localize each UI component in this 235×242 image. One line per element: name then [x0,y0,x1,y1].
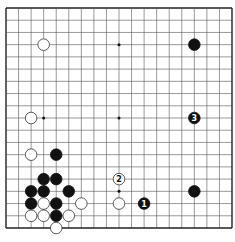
stones: 321 [25,39,200,234]
move-number-label: 2 [116,175,122,184]
white-stone [25,210,37,222]
white-stone [76,198,88,210]
black-stone [38,173,50,185]
black-stone [189,39,201,51]
white-stone [25,112,37,124]
black-stone [50,173,62,185]
white-stone [38,39,50,51]
black-stone [38,186,50,198]
star-point [118,43,121,46]
white-stone [38,210,50,222]
black-stone: 1 [138,198,150,210]
go-board-diagram: 321 [0,0,235,242]
move-number-label: 3 [192,114,198,123]
black-stone: 3 [189,112,201,124]
move-number-label: 1 [141,200,147,209]
black-stone [25,186,37,198]
white-stone [113,198,125,210]
white-stone: 2 [113,173,125,185]
star-point [118,117,121,120]
star-point [42,117,45,120]
black-stone [63,186,75,198]
white-stone [63,210,75,222]
black-stone [50,198,62,210]
star-point [118,190,121,193]
white-stone [38,198,50,210]
black-stone [25,198,37,210]
black-stone [50,210,62,222]
black-stone [189,186,201,198]
white-stone [25,149,37,161]
black-stone [50,149,62,161]
white-stone [50,222,62,234]
go-board: 321 [0,0,235,242]
